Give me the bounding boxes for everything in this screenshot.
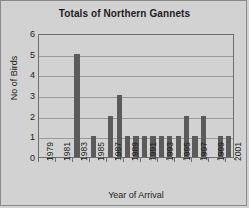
bar-slot xyxy=(182,35,190,157)
bar-slot xyxy=(64,35,72,157)
bar-slot xyxy=(166,35,174,157)
bar[interactable] xyxy=(142,136,147,157)
bar-slot xyxy=(47,35,55,157)
bar-slot xyxy=(174,35,182,157)
y-tick-label: 3 xyxy=(15,91,35,101)
x-tick-label: 1997 xyxy=(200,142,209,161)
x-tick-label: 1979 xyxy=(46,142,55,161)
bar-slot xyxy=(149,35,157,157)
bar-slot xyxy=(132,35,140,157)
bar[interactable] xyxy=(226,136,231,157)
bar-slot xyxy=(140,35,148,157)
x-tick-label: 1985 xyxy=(97,142,106,161)
x-axis-tick-labels: 1979198119831985198719891991199319951997… xyxy=(38,161,234,191)
bar-slot xyxy=(216,35,224,157)
chart-title: Totals of Northern Gannets xyxy=(1,8,248,19)
x-tick-label: 1991 xyxy=(149,142,158,161)
bar-slot xyxy=(208,35,216,157)
bar-slot xyxy=(225,35,233,157)
bar-slot xyxy=(107,35,115,157)
bar-slot xyxy=(115,35,123,157)
x-tick-label: 1999 xyxy=(217,142,226,161)
plot-area xyxy=(38,34,234,158)
chart-frame: Totals of Northern Gannets No of Birds 0… xyxy=(0,0,247,206)
bar-slot xyxy=(157,35,165,157)
bar-slot xyxy=(98,35,106,157)
x-tick-label: 2001 xyxy=(234,142,243,161)
y-tick-label: 0 xyxy=(15,153,35,163)
bar[interactable] xyxy=(176,136,181,157)
y-tick-label: 6 xyxy=(15,29,35,39)
y-tick-label: 2 xyxy=(15,112,35,122)
x-tick-label: 1993 xyxy=(166,142,175,161)
bar-slot xyxy=(81,35,89,157)
x-axis-title: Year of Arrival xyxy=(38,190,234,200)
x-tick-label: 1983 xyxy=(80,142,89,161)
bar-slot xyxy=(90,35,98,157)
x-tick-label: 1995 xyxy=(183,142,192,161)
bar-series xyxy=(39,35,233,157)
bar-slot xyxy=(191,35,199,157)
y-axis-tick-labels: 0123456 xyxy=(15,29,35,163)
y-tick-label: 4 xyxy=(15,70,35,80)
x-tick-label: 1987 xyxy=(114,142,123,161)
bar-slot xyxy=(199,35,207,157)
bar[interactable] xyxy=(192,136,197,157)
bar-slot xyxy=(56,35,64,157)
bar-slot xyxy=(73,35,81,157)
bar-slot xyxy=(39,35,47,157)
x-tick-label: 1989 xyxy=(131,142,140,161)
y-tick-label: 5 xyxy=(15,50,35,60)
bar-slot xyxy=(123,35,131,157)
y-tick-label: 1 xyxy=(15,132,35,142)
x-tick-label: 1981 xyxy=(63,142,72,161)
bar[interactable] xyxy=(159,136,164,157)
